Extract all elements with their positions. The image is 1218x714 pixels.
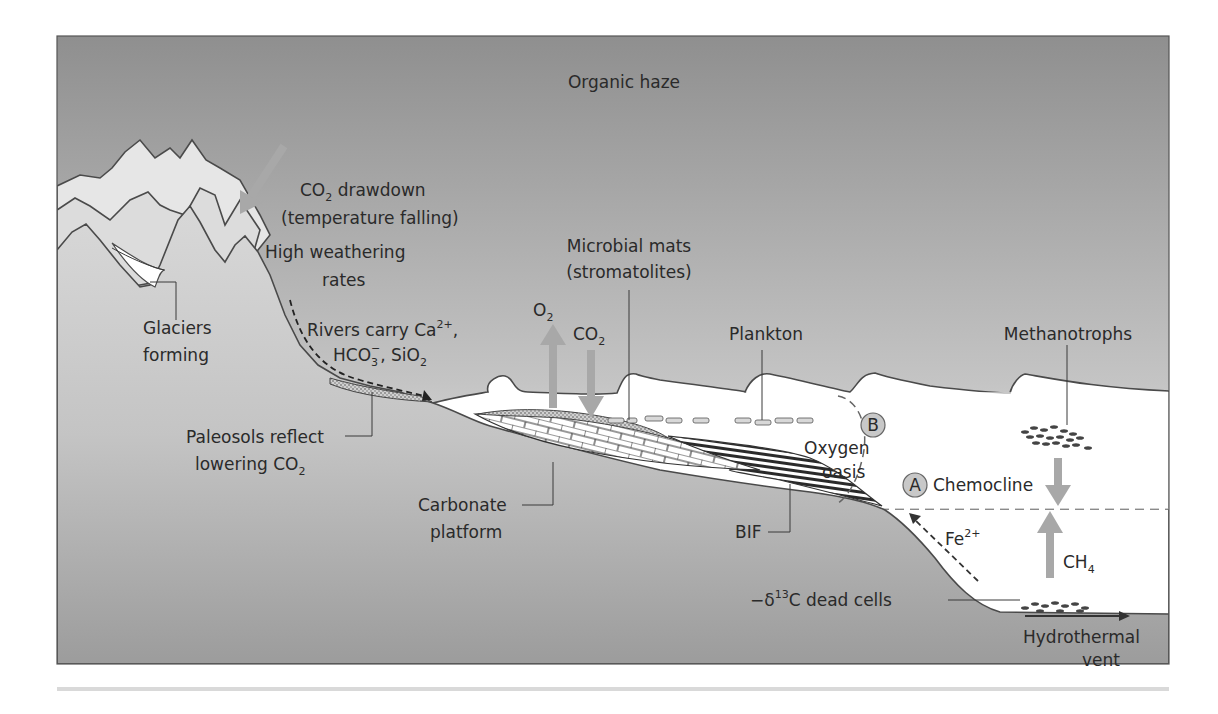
- svg-text:A: A: [909, 475, 921, 495]
- forming-label: forming: [143, 345, 209, 365]
- high-weathering-label: High weathering: [265, 242, 405, 262]
- rivers-carry-label: Rivers carry Ca2+,: [307, 318, 458, 340]
- glaciers-label: Glaciers: [143, 318, 212, 338]
- vent-label: vent: [1082, 650, 1120, 670]
- svg-text:B: B: [867, 415, 879, 435]
- rivers-ions-label: HCO3−, SiO2: [333, 342, 427, 369]
- temperature-falling-label: (temperature falling): [281, 208, 459, 228]
- footer-rule: [57, 687, 1169, 691]
- dead-cells-label: −δ13C dead cells: [750, 588, 892, 610]
- rates-label: rates: [322, 270, 366, 290]
- methanotrophs-label: Methanotrophs: [1004, 324, 1132, 344]
- bif-label: BIF: [735, 522, 761, 542]
- plankton-label: Plankton: [729, 324, 803, 344]
- marker-b: B: [861, 413, 885, 437]
- oasis-label: oasis: [822, 462, 865, 482]
- chemocline-label: Chemocline: [933, 475, 1033, 495]
- oxygen-label: Oxygen: [804, 438, 870, 458]
- marker-a: A: [903, 473, 927, 497]
- paleosols-label: Paleosols reflect: [186, 427, 324, 447]
- hydrothermal-label: Hydrothermal: [1023, 627, 1140, 647]
- platform-label: platform: [430, 522, 502, 542]
- carbonate-label: Carbonate: [418, 495, 507, 515]
- ocean-chemistry-diagram: B A Organic haze CO2 drawdown (temperatu…: [0, 0, 1218, 714]
- organic-haze-title: Organic haze: [568, 72, 680, 92]
- microbial-mats-label: Microbial mats: [567, 236, 691, 256]
- stromatolites-label: (stromatolites): [566, 262, 691, 282]
